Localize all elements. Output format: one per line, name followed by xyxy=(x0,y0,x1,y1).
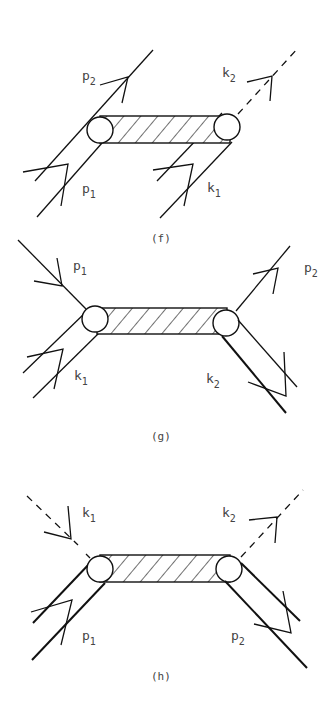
k1-line-b xyxy=(160,142,232,218)
p2-line-a xyxy=(241,563,300,621)
vertex-right xyxy=(213,310,239,336)
k2-arrow-icon xyxy=(249,517,277,543)
vertex-right xyxy=(216,556,242,582)
k1-line-a xyxy=(23,312,86,373)
label-p2: p2 xyxy=(231,628,245,647)
caption-g: (g) xyxy=(151,430,171,443)
label-p1: p1 xyxy=(82,628,96,647)
label-k2: k2 xyxy=(206,371,220,390)
k1-arrow-icon xyxy=(27,349,63,389)
p2-arrow-icon xyxy=(100,77,128,103)
caption-f: (f) xyxy=(151,232,171,245)
feynman-diagrams: p2 k2 p1 k1 (f) p1 p2 k1 k2 (g) xyxy=(0,0,336,704)
p1-line-a xyxy=(33,562,91,623)
label-p1: p1 xyxy=(73,258,87,277)
diagram-g: p1 p2 k1 k2 (g) xyxy=(18,240,318,443)
k1-line-b xyxy=(33,332,100,398)
p2-arrow-icon xyxy=(254,591,291,633)
p2-line xyxy=(236,246,290,311)
p1-line xyxy=(18,240,86,309)
vertex-left xyxy=(87,117,113,143)
p2-line-b xyxy=(225,581,307,668)
hatched-blob xyxy=(97,308,227,334)
hatched-blob xyxy=(100,555,230,582)
p1-line-b xyxy=(32,583,105,660)
label-k1: k1 xyxy=(207,180,221,199)
label-p2: p2 xyxy=(82,68,96,87)
hatched-blob xyxy=(100,116,230,143)
vertex-left xyxy=(82,306,108,332)
label-k2: k2 xyxy=(222,505,236,524)
k1-stub xyxy=(86,554,90,558)
caption-h: (h) xyxy=(151,670,171,683)
k2-dashed-line xyxy=(241,490,303,557)
k2-line-a xyxy=(238,320,297,387)
p1-line xyxy=(37,143,102,217)
label-k1: k1 xyxy=(82,505,96,524)
vertex-right xyxy=(214,114,240,140)
diagram-f: p2 k2 p1 k1 (f) xyxy=(23,48,298,245)
label-k1: k1 xyxy=(74,368,88,387)
p2-arrow-icon xyxy=(253,268,278,294)
vertex-left xyxy=(87,556,113,582)
k2-line-b xyxy=(222,336,286,413)
label-p2: p2 xyxy=(304,260,318,279)
p1-arrow-icon xyxy=(34,258,62,286)
k1-arrow-icon xyxy=(153,164,193,206)
k2-dashed-line xyxy=(238,48,298,114)
label-p1: p1 xyxy=(82,181,96,200)
label-k2: k2 xyxy=(222,65,236,84)
k2-arrow-icon xyxy=(247,76,272,101)
diagram-h: k1 k2 p1 p2 (h) xyxy=(27,490,307,683)
